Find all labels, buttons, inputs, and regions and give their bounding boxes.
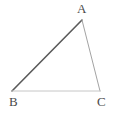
vertex-label-b: B [9, 95, 18, 108]
vertex-label-a: A [77, 2, 86, 15]
side-ac-line [82, 20, 100, 91]
triangle-figure: A B C [0, 0, 116, 114]
vertex-label-c: C [97, 95, 106, 108]
side-ab-line [12, 20, 82, 91]
